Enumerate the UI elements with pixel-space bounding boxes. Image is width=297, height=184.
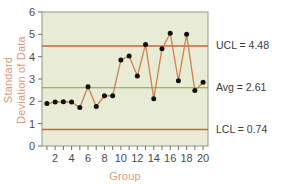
x-tick-label: 8 <box>101 152 107 164</box>
y-axis-title-line2: Deviation of Data <box>15 35 27 123</box>
data-point <box>201 80 206 85</box>
data-point <box>94 104 99 109</box>
data-point <box>77 105 82 110</box>
data-point <box>61 99 66 104</box>
reference-label-avg: Avg = 2.61 <box>216 81 266 93</box>
x-tick-label: 14 <box>148 152 160 164</box>
y-tick-label: 0 <box>29 140 35 152</box>
x-tick-label: 4 <box>69 152 75 164</box>
y-axis-title-line1: Standard <box>2 57 14 103</box>
data-point <box>176 78 181 83</box>
control-chart: 0123456 2468101214161820 UCL = 4.48Avg =… <box>0 0 297 184</box>
x-tick-label: 6 <box>85 152 91 164</box>
data-point <box>168 31 173 36</box>
y-tick-label: 4 <box>29 51 35 63</box>
x-axis-title: Group <box>109 170 141 182</box>
data-point <box>143 42 148 47</box>
data-point <box>135 74 140 79</box>
y-tick-label: 3 <box>29 73 35 85</box>
y-tick-label: 2 <box>29 95 35 107</box>
y-axis: 0123456 <box>29 6 42 152</box>
x-axis: 2468101214161820 <box>47 146 209 164</box>
y-tick-label: 5 <box>29 28 35 40</box>
plot-background <box>42 12 208 146</box>
data-point <box>110 93 115 98</box>
data-point <box>69 100 74 105</box>
chart-canvas: 0123456 2468101214161820 UCL = 4.48Avg =… <box>0 0 297 184</box>
data-point <box>192 88 197 93</box>
data-point <box>151 96 156 101</box>
data-point <box>102 93 107 98</box>
x-tick-label: 10 <box>115 152 127 164</box>
data-point <box>184 32 189 37</box>
data-point <box>44 101 49 106</box>
data-point <box>159 46 164 51</box>
x-tick-label: 2 <box>52 152 58 164</box>
reference-line-labels: UCL = 4.48Avg = 2.61LCL = 0.74 <box>216 39 269 135</box>
x-tick-label: 18 <box>181 152 193 164</box>
reference-label-lcl: LCL = 0.74 <box>216 123 267 135</box>
reference-label-ucl: UCL = 4.48 <box>216 39 269 51</box>
x-tick-label: 12 <box>131 152 143 164</box>
data-point <box>86 84 91 89</box>
data-point <box>127 54 132 59</box>
y-tick-label: 6 <box>29 6 35 18</box>
x-tick-label: 16 <box>164 152 176 164</box>
x-tick-label: 20 <box>197 152 209 164</box>
y-tick-label: 1 <box>29 118 35 130</box>
data-point <box>53 100 58 105</box>
data-point <box>118 58 123 63</box>
